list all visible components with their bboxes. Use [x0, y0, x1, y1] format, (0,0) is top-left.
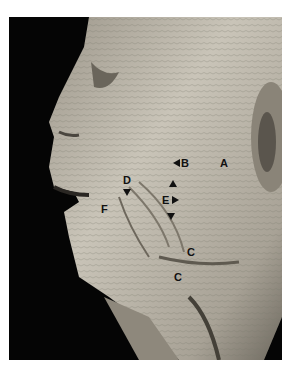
- label-c-upper: C: [187, 247, 195, 258]
- label-d: D: [123, 175, 131, 186]
- arrowhead-down-icon: [167, 213, 175, 220]
- label-f: F: [101, 204, 108, 215]
- dissection-photo: A B D E F C C: [9, 17, 282, 360]
- face-dissection-image: [9, 17, 282, 360]
- arrowhead-up-icon: [169, 180, 177, 187]
- label-a: A: [220, 158, 228, 169]
- label-e: E: [162, 195, 169, 206]
- label-b: B: [181, 158, 189, 169]
- arrowhead-down-icon: [123, 189, 131, 196]
- arrowhead-right-icon: [172, 196, 179, 204]
- label-c-lower: C: [174, 272, 182, 283]
- arrowhead-left-icon: [173, 159, 180, 167]
